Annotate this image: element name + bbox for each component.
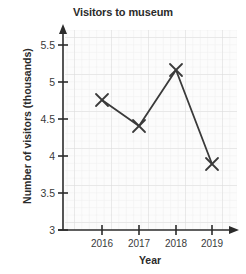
line-chart: Visitors to museum Number of visitors (t… xyxy=(0,0,246,274)
y-tick-4: 4 xyxy=(28,150,55,162)
y-tick-3: 3 xyxy=(28,224,55,236)
x-tick-2016: 2016 xyxy=(82,238,122,249)
y-tick-5.5: 5.5 xyxy=(28,39,55,51)
x-axis-title: Year xyxy=(62,254,238,266)
grid-lines xyxy=(65,30,237,230)
y-tick-5: 5 xyxy=(28,76,55,88)
y-tick-4.5: 4.5 xyxy=(28,113,55,125)
y-tick-3.5: 3.5 xyxy=(28,187,55,199)
x-tick-2019: 2019 xyxy=(192,238,232,249)
y-axis-arrow-icon xyxy=(59,24,67,34)
x-tick-2018: 2018 xyxy=(156,238,196,249)
x-tick-2017: 2017 xyxy=(119,238,159,249)
